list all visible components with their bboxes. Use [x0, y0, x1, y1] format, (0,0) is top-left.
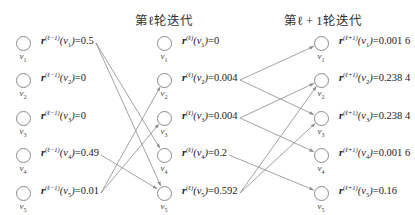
node-label: v5 — [154, 201, 174, 213]
node-label: v5 — [311, 201, 331, 213]
node-l_plus_1-v3 — [314, 111, 329, 126]
node-label: v4 — [311, 163, 331, 175]
node-l_plus_1-v1 — [314, 36, 329, 51]
score-l_minus_1-v5: r(ℓ−1)(v5)=0.01 — [41, 185, 99, 198]
node-l_minus_1-v3 — [16, 111, 31, 126]
node-l_plus_1-v2 — [314, 73, 329, 88]
edge-layer — [0, 0, 415, 215]
score-l_minus_1-v3: r(ℓ−1)(v3)=0 — [41, 110, 86, 123]
score-l-v1: r(ℓ)(v1)=0 — [182, 35, 219, 48]
node-label: v2 — [154, 88, 174, 100]
edge-v5-to-v3 — [101, 124, 159, 193]
edge-v4-to-v5 — [229, 155, 314, 190]
node-l_minus_1-v5 — [16, 186, 31, 201]
edge-v3-to-v2 — [240, 83, 314, 118]
node-label: v1 — [13, 51, 33, 63]
edge-v1-to-v4 — [96, 43, 160, 148]
node-l-v1 — [157, 36, 172, 51]
node-label: v2 — [13, 88, 33, 100]
score-l_minus_1-v4: r(ℓ−1)(v4)=0.49 — [41, 147, 99, 160]
node-l_minus_1-v4 — [16, 148, 31, 163]
node-label: v4 — [13, 163, 33, 175]
node-l-v2 — [157, 73, 172, 88]
edge-v5-to-v2 — [101, 87, 160, 193]
score-l_minus_1-v1: r(ℓ−1)(v1)=0.5 — [41, 35, 94, 48]
node-l-v3 — [157, 111, 172, 126]
node-label: v3 — [154, 126, 174, 138]
edge-v2-to-v3 — [240, 80, 314, 115]
score-l_plus_1-v4: r(ℓ+1)(v4)=0.001 6 — [339, 147, 410, 160]
node-l_minus_1-v2 — [16, 73, 31, 88]
score-l_plus_1-v3: r(ℓ+1)(v3)=0.238 4 — [339, 110, 410, 123]
node-l_plus_1-v4 — [314, 148, 329, 163]
node-l-v5 — [157, 186, 172, 201]
title-iteration-l: 第ℓ轮迭代 — [135, 10, 193, 29]
node-l-v4 — [157, 148, 172, 163]
node-label: v5 — [13, 201, 33, 213]
score-l_minus_1-v2: r(ℓ−1)(v2)=0 — [41, 72, 86, 85]
edge-v1-to-v5 — [96, 43, 161, 186]
score-l_plus_1-v1: r(ℓ+1)(v1)=0.001 6 — [339, 35, 410, 48]
score-l-v2: r(ℓ)(v2)=0.004 — [182, 72, 238, 85]
score-l-v3: r(ℓ)(v3)=0.004 — [182, 110, 238, 123]
edge-v2-to-v1 — [240, 46, 314, 80]
score-l-v5: r(ℓ)(v5)=0.592 — [182, 185, 238, 198]
title-iteration-l-plus-1: 第ℓ + 1轮迭代 — [284, 10, 362, 29]
score-l_plus_1-v5: r(ℓ+1)(v5)=0.16 — [339, 185, 397, 198]
node-l_plus_1-v5 — [314, 186, 329, 201]
score-l-v4: r(ℓ)(v4)=0.2 — [182, 147, 227, 160]
node-l_minus_1-v1 — [16, 36, 31, 51]
edge-v5-to-v3 — [240, 123, 315, 193]
node-label: v3 — [13, 126, 33, 138]
edge-v5-to-v2 — [240, 87, 316, 193]
node-label: v1 — [154, 51, 174, 63]
score-l_plus_1-v2: r(ℓ+1)(v2)=0.238 4 — [339, 72, 410, 85]
node-label: v3 — [311, 126, 331, 138]
node-label: v4 — [154, 163, 174, 175]
node-label: v2 — [311, 88, 331, 100]
node-label: v1 — [311, 51, 331, 63]
